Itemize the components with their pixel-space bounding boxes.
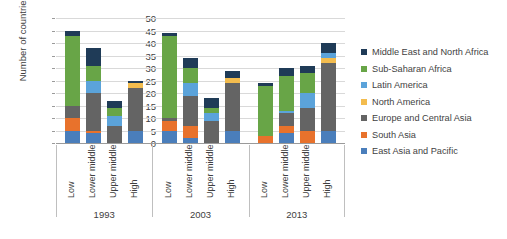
- bar-segment: [300, 66, 315, 74]
- legend-item[interactable]: Latin America: [361, 77, 507, 94]
- bar-segment: [321, 63, 336, 131]
- bar-segment: [162, 131, 177, 144]
- legend-swatch-icon: [361, 148, 367, 154]
- bar-segment: [204, 121, 219, 144]
- plot-area: [56, 18, 345, 144]
- bar-2013-upper-middle: [300, 66, 315, 144]
- stacked-bar-chart: Number of countries 50454035302520151050…: [0, 0, 507, 239]
- group-separator: [56, 145, 57, 217]
- bar-segment: [183, 96, 198, 126]
- bar-segment: [183, 126, 198, 139]
- bar-segment: [321, 131, 336, 144]
- bar-segment: [107, 126, 122, 144]
- bar-segment: [86, 133, 101, 143]
- bar-segment: [86, 66, 101, 81]
- bar-segment: [183, 68, 198, 83]
- legend: Middle East and North AfricaSub-Saharan …: [361, 44, 507, 160]
- group-separator: [344, 145, 345, 217]
- bar-segment: [225, 83, 240, 131]
- y-axis-tick-mark: [52, 106, 55, 107]
- bar-2003-high: [225, 71, 240, 144]
- bar-segment: [107, 108, 122, 116]
- bar-segment: [258, 86, 273, 136]
- bar-segment: [300, 108, 315, 131]
- y-axis-tick-mark: [52, 18, 55, 19]
- legend-item[interactable]: North America: [361, 94, 507, 111]
- legend-item-label: Sub-Saharan Africa: [372, 64, 452, 74]
- y-axis-tick-mark: [52, 143, 55, 144]
- legend-swatch-icon: [361, 49, 367, 55]
- bar-segment: [162, 121, 177, 131]
- legend-item-label: East Asia and Pacific: [372, 146, 458, 156]
- bar-segment: [300, 131, 315, 144]
- legend-item[interactable]: Middle East and North Africa: [361, 44, 507, 61]
- group-separator: [249, 145, 250, 217]
- bar-2013-lower-middle: [279, 68, 294, 143]
- year-label: 2013: [249, 209, 345, 220]
- bar-segment: [107, 101, 122, 109]
- bar-segment: [279, 76, 294, 111]
- bar-segment: [279, 126, 294, 134]
- legend-swatch-icon: [361, 115, 367, 121]
- bar-1993-lower-middle: [86, 48, 101, 143]
- bar-segment: [86, 48, 101, 66]
- y-axis-tick-mark: [52, 118, 55, 119]
- bar-segment: [321, 43, 336, 53]
- bar-segment: [107, 116, 122, 126]
- y-axis-tick-mark: [52, 131, 55, 132]
- bar-segment: [204, 98, 219, 108]
- bar-segment: [279, 68, 294, 76]
- legend-item[interactable]: Sub-Saharan Africa: [361, 61, 507, 78]
- bar-2003-low: [162, 33, 177, 143]
- y-axis-tick-mark: [52, 81, 55, 82]
- legend-item-label: Europe and Central Asia: [372, 113, 472, 123]
- legend-item[interactable]: South Asia: [361, 127, 507, 144]
- bar-segment: [86, 81, 101, 94]
- y-axis-tick-mark: [52, 31, 55, 32]
- bar-segment: [128, 131, 143, 144]
- bar-segment: [183, 58, 198, 68]
- group-separator: [152, 145, 153, 217]
- bar-1993-low: [65, 31, 80, 144]
- gridline: [56, 31, 345, 32]
- legend-item-label: Middle East and North Africa: [372, 47, 488, 57]
- bar-segment: [300, 73, 315, 93]
- legend-swatch-icon: [361, 132, 367, 138]
- bar-segment: [279, 133, 294, 143]
- legend-item-label: North America: [372, 97, 430, 107]
- bar-2003-upper-middle: [204, 98, 219, 143]
- bar-segment: [65, 131, 80, 144]
- y-axis-title: Number of countries: [17, 0, 28, 104]
- bar-segment: [279, 113, 294, 126]
- bar-segment: [128, 88, 143, 131]
- bar-segment: [300, 93, 315, 108]
- legend-item[interactable]: Europe and Central Asia: [361, 110, 507, 127]
- bar-2013-low: [258, 83, 273, 143]
- bar-segment: [65, 36, 80, 106]
- gridline: [56, 18, 345, 19]
- y-axis-tick-mark: [52, 68, 55, 69]
- bar-segment: [258, 136, 273, 144]
- y-axis-tick-mark: [52, 93, 55, 94]
- bar-segment: [183, 83, 198, 96]
- bar-segment: [204, 113, 219, 121]
- y-axis-tick-mark: [52, 43, 55, 44]
- group-axis: 199320032013: [56, 145, 345, 220]
- bar-2003-lower-middle: [183, 58, 198, 143]
- legend-item[interactable]: East Asia and Pacific: [361, 143, 507, 160]
- year-label: 1993: [56, 209, 152, 220]
- bar-segment: [225, 71, 240, 79]
- bar-segment: [65, 118, 80, 131]
- bar-2013-high: [321, 43, 336, 143]
- bar-segment: [183, 138, 198, 143]
- bar-segment: [162, 36, 177, 119]
- bar-1993-high: [128, 81, 143, 144]
- legend-swatch-icon: [361, 99, 367, 105]
- legend-swatch-icon: [361, 82, 367, 88]
- bar-1993-upper-middle: [107, 101, 122, 144]
- legend-item-label: Latin America: [372, 80, 428, 90]
- bar-segment: [65, 106, 80, 119]
- gridline: [56, 43, 345, 44]
- legend-item-label: South Asia: [372, 130, 416, 140]
- bar-segment: [86, 93, 101, 131]
